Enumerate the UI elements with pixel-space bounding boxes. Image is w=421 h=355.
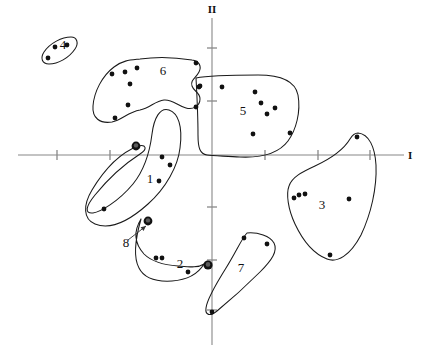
cluster-outline-6[interactable] <box>93 57 200 122</box>
data-point <box>46 56 51 61</box>
data-point <box>194 61 199 66</box>
data-point <box>113 116 118 121</box>
cluster-label-2: 2 <box>177 256 184 271</box>
data-point <box>259 101 264 106</box>
cluster-label-4: 4 <box>60 37 67 52</box>
cluster-label-3: 3 <box>319 197 326 212</box>
data-point <box>126 103 131 108</box>
data-point <box>160 256 165 261</box>
data-point <box>160 155 165 160</box>
data-point <box>210 310 215 315</box>
data-point <box>110 72 115 77</box>
data-point <box>186 270 191 275</box>
y-axis-label: II <box>208 3 217 15</box>
data-point <box>292 196 297 201</box>
cluster-label-6: 6 <box>160 63 167 78</box>
cluster-label-5: 5 <box>240 103 247 118</box>
data-point <box>347 197 352 202</box>
ring-marker-core <box>146 218 150 222</box>
cluster-outline-1[interactable] <box>86 110 181 226</box>
x-axis-label: I <box>408 149 412 161</box>
data-point <box>303 192 308 197</box>
data-point <box>273 106 278 111</box>
cluster-scatter-chart: III 12345678 <box>0 0 421 355</box>
data-point <box>154 256 159 261</box>
cluster-label-8: 8 <box>123 235 130 250</box>
data-point <box>297 193 302 198</box>
cluster-outline-5[interactable] <box>196 75 299 157</box>
axes-group: III <box>18 3 412 345</box>
callout-arrow-head <box>141 226 146 231</box>
cluster-outline-2[interactable] <box>135 219 204 281</box>
data-point <box>253 90 258 95</box>
data-point <box>194 105 199 110</box>
data-point <box>157 179 162 184</box>
data-point <box>102 207 107 212</box>
data-point <box>328 253 333 258</box>
data-point <box>197 85 202 90</box>
ring-marker-core <box>134 143 138 147</box>
data-point <box>168 163 173 168</box>
cluster-label-7: 7 <box>238 260 245 275</box>
ring-marker-core <box>206 262 211 267</box>
data-point <box>123 70 128 75</box>
data-point <box>53 45 58 50</box>
data-point <box>242 236 247 241</box>
clusters-group <box>42 37 376 315</box>
data-point <box>265 112 270 117</box>
data-point <box>128 82 133 87</box>
cluster-outline-3[interactable] <box>288 133 376 260</box>
data-point <box>288 131 293 136</box>
data-point <box>220 85 225 90</box>
ring-markers-group <box>132 142 213 270</box>
data-point <box>135 66 140 71</box>
chart-canvas: III 12345678 <box>0 0 421 355</box>
data-point <box>355 135 360 140</box>
cluster-label-1: 1 <box>147 171 154 186</box>
data-point <box>265 242 270 247</box>
data-points-group <box>46 43 360 315</box>
cluster-labels-group: 12345678 <box>60 37 326 275</box>
data-point <box>251 132 256 137</box>
